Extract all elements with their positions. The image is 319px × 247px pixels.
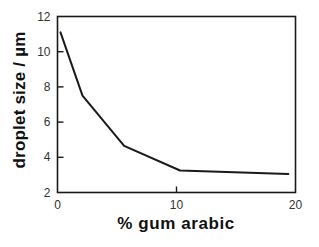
x-axis-title: % gum arabic	[57, 214, 295, 234]
y-tick-label-2: 2	[44, 186, 51, 200]
x-tick-label-10: 10	[170, 198, 184, 212]
y-axis-title: droplet size / µm	[10, 32, 30, 169]
plot-area: 2468101201020	[0, 0, 319, 247]
y-axis-title-container: droplet size / µm	[0, 0, 40, 200]
x-tick-label-20: 20	[289, 198, 303, 212]
y-tick-label-4: 4	[44, 150, 51, 164]
x-tick-label-0: 0	[54, 198, 61, 212]
y-tick-label-6: 6	[44, 115, 51, 129]
y-tick-label-8: 8	[44, 80, 51, 94]
axis-frame	[58, 17, 296, 193]
plot-frame	[58, 17, 296, 193]
chart-figure: droplet size / µm 2468101201020 % gum ar…	[0, 0, 319, 247]
